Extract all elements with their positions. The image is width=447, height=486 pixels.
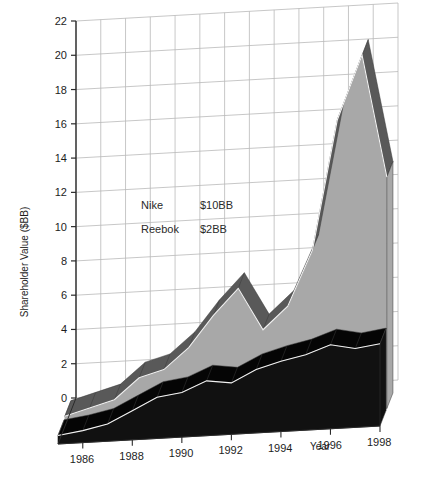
y-axis-title: Shareholder Value ($BB) xyxy=(19,207,30,317)
x-axis-title: Year xyxy=(310,441,331,452)
legend-series-name: Reebok xyxy=(141,223,179,235)
y-tick-label: 16 xyxy=(55,118,67,130)
x-tick-label: 1990 xyxy=(169,447,193,459)
x-tick-label: 1998 xyxy=(367,436,391,448)
y-tick-label: 8 xyxy=(61,255,67,267)
x-tick-label: 1994 xyxy=(268,442,292,454)
chart-container: 0246810121416182022198619881990199219941… xyxy=(0,0,447,486)
legend-series-name: Nike xyxy=(141,199,163,211)
y-tick-label: 18 xyxy=(55,84,67,96)
x-tick-label: 1986 xyxy=(70,453,94,465)
y-tick-label: 14 xyxy=(55,152,67,164)
y-tick-label: 12 xyxy=(55,186,67,198)
y-tick-label: 4 xyxy=(61,323,67,335)
y-tick-label: 20 xyxy=(55,49,67,61)
y-tick-label: 22 xyxy=(55,15,67,27)
chart-legend: Nike$10BBReebok$2BB xyxy=(141,199,233,235)
x-tick-label: 1988 xyxy=(119,450,143,462)
y-tick-label: 6 xyxy=(61,289,67,301)
legend-series-value: $10BB xyxy=(200,199,233,211)
x-tick-label: 1992 xyxy=(218,444,242,456)
series-layer xyxy=(58,40,393,444)
y-tick-label: 10 xyxy=(55,221,67,233)
y-tick-label: 0 xyxy=(61,392,67,404)
y-tick-label: 2 xyxy=(61,358,67,370)
shareholder-value-area-chart: 0246810121416182022198619881990199219941… xyxy=(0,0,447,486)
legend-series-value: $2BB xyxy=(200,223,227,235)
